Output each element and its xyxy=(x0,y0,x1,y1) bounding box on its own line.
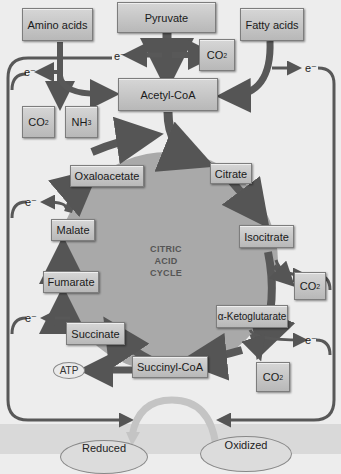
co2-box-ketoglutarate: CO2 xyxy=(256,362,290,392)
reduced-carrier-ellipse: Reduced xyxy=(60,440,148,474)
malate-box: Malate xyxy=(51,219,95,241)
amino-acids-box: Amino acids xyxy=(22,8,93,41)
succinate-box: Succinate xyxy=(66,322,125,345)
fatty-acids-box: Fatty acids xyxy=(240,8,304,41)
isocitrate-box: Isocitrate xyxy=(239,225,294,248)
acetyl-coa-box: Acetyl-CoA xyxy=(118,78,218,111)
oxidized-carrier-ellipse: Oxidized xyxy=(200,436,292,472)
alpha-ketoglutarate-box: α-Ketoglutarate xyxy=(216,305,288,328)
electron-label-ketoglutarate: e⁻ xyxy=(305,334,317,347)
electron-label-pyruvate: e⁻ xyxy=(114,50,126,63)
co2-box-isocitrate: CO2 xyxy=(294,272,326,300)
electron-label-fatty: e⁻ xyxy=(305,62,317,75)
atp-ellipse: ATP xyxy=(53,362,85,379)
electron-label-amino: e⁻ xyxy=(24,66,36,79)
citrate-box: Citrate xyxy=(210,163,252,184)
electron-label-succinate: e⁻ xyxy=(25,312,37,325)
cycle-center-label: CITRIC ACID CYCLE xyxy=(126,243,206,279)
fumarate-box: Fumarate xyxy=(43,271,99,293)
succinyl-coa-box: Succinyl-CoA xyxy=(132,356,208,378)
pyruvate-box: Pyruvate xyxy=(117,2,216,33)
electron-label-malate: e⁻ xyxy=(25,196,37,209)
co2-box-amino: CO2 xyxy=(22,106,55,138)
oxaloacetate-box: Oxaloacetate xyxy=(70,165,144,187)
co2-box-pyruvate: CO2 xyxy=(199,39,235,71)
nh3-box: NH3 xyxy=(65,106,98,138)
